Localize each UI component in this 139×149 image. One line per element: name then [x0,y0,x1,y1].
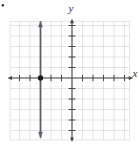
x-axis-label: x [132,67,138,79]
y-axis-label: y [68,2,74,14]
worksheet-graph-figure: • x y [0,0,139,149]
coordinate-plane-chart: x y [0,0,139,149]
